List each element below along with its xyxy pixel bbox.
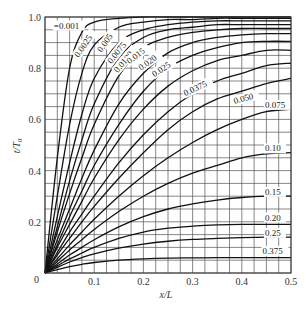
y-tick-label: 0.2 xyxy=(29,217,42,228)
y-axis-ticks: 00.20.40.60.81.0 xyxy=(29,12,42,285)
x-axis-ticks: 0.10.20.30.40.5 xyxy=(88,276,297,287)
curve-label: 0.20 xyxy=(265,213,281,223)
x-tick-label: 0.5 xyxy=(285,276,298,287)
curve-label: 0.15 xyxy=(265,187,281,197)
chart-figure: =0.0010.00250.0050.00750.01000.0150.0200… xyxy=(0,0,306,309)
x-tick-label: 0.1 xyxy=(88,276,101,287)
x-tick-label: 0.2 xyxy=(137,276,150,287)
y-tick-label: 0.8 xyxy=(29,63,42,74)
x-tick-label: 0.4 xyxy=(236,276,249,287)
svg-text:t/T0: t/T0 xyxy=(11,138,24,153)
curve-label: 0.075 xyxy=(265,100,286,110)
curve-label: 0.10 xyxy=(265,143,281,153)
y-axis-label: t/T0 xyxy=(11,138,24,153)
curve-label: 0.25 xyxy=(265,228,281,238)
curve-label: =0.001 xyxy=(54,21,79,31)
y-tick-label: 0.6 xyxy=(29,114,42,125)
x-axis-label: x/L xyxy=(159,289,173,300)
y-tick-label: 0 xyxy=(34,274,39,285)
x-tick-label: 0.3 xyxy=(186,276,199,287)
curve-label: 0.375 xyxy=(262,246,283,256)
y-tick-label: 1.0 xyxy=(29,12,42,23)
y-tick-label: 0.4 xyxy=(29,166,42,177)
